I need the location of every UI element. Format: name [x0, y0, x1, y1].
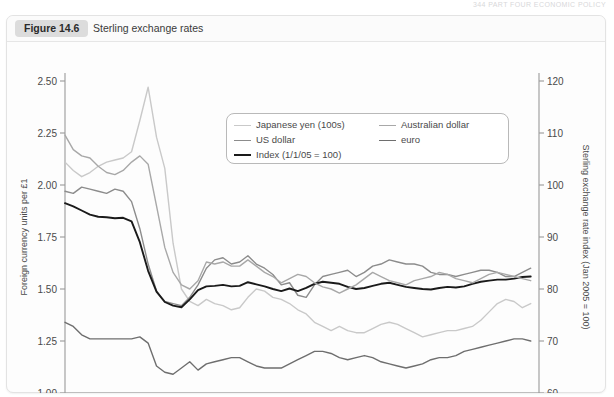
- y-axis-tick-label: 1.25: [38, 336, 58, 347]
- running-head: 344 PART FOUR ECONOMIC POLICY: [473, 1, 606, 8]
- y2-axis-tick-label: 70: [547, 336, 559, 347]
- legend-label-euro: euro: [401, 135, 420, 145]
- legend-item-euro: euro: [379, 133, 469, 147]
- figure-title: Sterling exchange rates: [93, 20, 203, 37]
- legend-label-australian-dollar: Australian dollar: [401, 120, 469, 130]
- figure-card: Figure 14.6 Sterling exchange rates 1.00…: [6, 15, 606, 393]
- legend-column-left: Japanese yen (100s) US dollar Index (1/1…: [234, 118, 345, 163]
- figure-header: Figure 14.6 Sterling exchange rates: [7, 16, 605, 42]
- legend-column-right: Australian dollar euro: [379, 118, 469, 148]
- legend-swatch-australian-dollar: [379, 125, 396, 126]
- legend-label-japanese-yen: Japanese yen (100s): [256, 120, 345, 130]
- y2-axis-tick-label: 110: [547, 128, 563, 139]
- y2-axis-tick-label: 60: [547, 388, 559, 393]
- legend-item-us-dollar: US dollar: [234, 133, 345, 147]
- legend-label-us-dollar: US dollar: [256, 135, 295, 145]
- series-line-index-1-1-05-100: [65, 203, 531, 307]
- y-axis-tick-label: 1.50: [38, 284, 58, 295]
- legend-label-index: Index (1/1/05 = 100): [256, 150, 341, 160]
- legend-swatch-us-dollar: [234, 140, 251, 141]
- series-line-us-dollar: [65, 187, 531, 306]
- y-axis-tick-label: 2.25: [38, 128, 58, 139]
- legend-item-japanese-yen: Japanese yen (100s): [234, 118, 345, 132]
- figure-number-badge: Figure 14.6: [15, 20, 88, 37]
- y2-axis-title: Sterling exchange rate index (Jan 2005 =…: [581, 145, 591, 330]
- legend-item-australian-dollar: Australian dollar: [379, 118, 469, 132]
- series-line-euro: [65, 322, 531, 374]
- y-axis-tick-label: 2.50: [38, 76, 58, 87]
- legend-swatch-euro: [379, 140, 396, 141]
- legend-swatch-japanese-yen: [234, 125, 251, 126]
- y2-axis-tick-label: 120: [547, 76, 564, 87]
- y2-axis-tick-label: 90: [547, 232, 559, 243]
- legend-item-index: Index (1/1/05 = 100): [234, 148, 345, 162]
- y-axis-tick-label: 1.75: [38, 232, 58, 243]
- y-axis-title: Foreign currency units per £1: [19, 178, 29, 295]
- y2-axis-tick-label: 100: [547, 180, 564, 191]
- y-axis-tick-label: 1.00: [38, 388, 58, 393]
- line-chart: 1.001.251.501.752.002.252.50607080901001…: [7, 41, 607, 393]
- legend-swatch-index: [234, 154, 251, 156]
- y2-axis-tick-label: 80: [547, 284, 559, 295]
- y-axis-tick-label: 2.00: [38, 180, 58, 191]
- chart-legend: Japanese yen (100s) US dollar Index (1/1…: [226, 113, 509, 164]
- plot-area: 1.001.251.501.752.002.252.50607080901001…: [7, 41, 607, 393]
